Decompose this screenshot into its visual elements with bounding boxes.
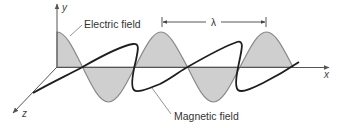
- electric-field-leader: [70, 25, 82, 36]
- y-axis-label: y: [61, 2, 68, 13]
- z-axis-label: z: [21, 108, 27, 119]
- em-wave-diagram: Electric field Magnetic field λ y x z: [0, 0, 342, 128]
- magnetic-field-leader: [152, 88, 171, 114]
- wavelength-label: λ: [211, 17, 216, 28]
- magnetic-field-label: Magnetic field: [174, 110, 239, 122]
- wavelength-dimension: λ: [162, 17, 266, 28]
- z-axis: [13, 67, 57, 113]
- electric-field-label: Electric field: [84, 18, 141, 30]
- x-axis-label: x: [323, 69, 330, 80]
